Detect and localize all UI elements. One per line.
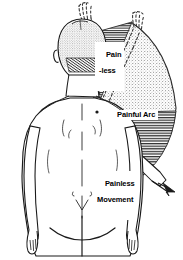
shoulder-pivot-point <box>95 110 98 113</box>
label-painless-movement: Painless Movement <box>95 171 137 220</box>
label-painless-movement-line2: Movement <box>97 196 135 204</box>
label-painful-arc: Painful Arc <box>114 110 158 120</box>
figure-illustration <box>0 0 183 260</box>
shoulder-range-of-motion-figure: Pain -less Painful Arc Painless Movement <box>0 0 183 260</box>
label-painless-high-line1: Pain <box>106 50 121 59</box>
label-painless-high-line2: -less <box>99 67 121 75</box>
label-painless-movement-line1: Painless <box>105 179 135 188</box>
label-painless-high: Pain -less <box>95 42 124 91</box>
